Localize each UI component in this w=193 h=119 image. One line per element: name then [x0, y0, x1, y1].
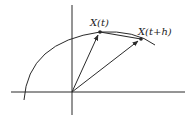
curve — [24, 32, 155, 100]
label-x-t: X(t) — [89, 17, 109, 28]
vector-to-x-t — [72, 35, 98, 92]
point-x-t-h — [139, 37, 143, 41]
diagram-canvas: X(t) X(t+h) — [0, 0, 193, 119]
label-x-t-h: X(t+h) — [137, 26, 172, 37]
point-x-t — [98, 30, 102, 34]
vector-to-x-t-h — [72, 41, 138, 92]
